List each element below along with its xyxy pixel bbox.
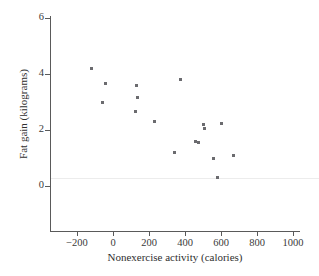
data-point xyxy=(136,96,139,99)
data-point xyxy=(101,101,104,104)
scatter-plot: 0246−20002004006008001000 Nonexercise ac… xyxy=(0,0,319,276)
data-point xyxy=(173,151,176,154)
data-point xyxy=(134,110,137,113)
x-axis-title: Nonexercise activity (calories) xyxy=(50,251,300,263)
data-point xyxy=(135,84,138,87)
y-axis-title: Fat gain (kilograms) xyxy=(17,29,29,199)
data-point xyxy=(203,127,206,130)
plot-area xyxy=(0,0,319,276)
data-point xyxy=(153,120,156,123)
data-point xyxy=(104,82,107,85)
data-point xyxy=(202,123,205,126)
data-point xyxy=(212,157,215,160)
data-point xyxy=(216,176,219,179)
data-point xyxy=(90,67,93,70)
data-point xyxy=(232,154,235,157)
data-point xyxy=(179,78,182,81)
data-point xyxy=(197,141,200,144)
data-point xyxy=(220,122,223,125)
